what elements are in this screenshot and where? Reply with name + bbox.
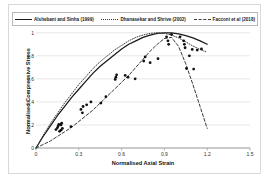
scatter-point <box>157 57 160 60</box>
scatter-point <box>115 73 118 76</box>
scatter-point <box>179 35 182 38</box>
scatter-point <box>200 48 203 51</box>
scatter-point <box>60 122 63 125</box>
scatter-point <box>134 77 137 80</box>
scatter-point <box>167 39 170 42</box>
legend-item-facconi: Facconi et al (2018) <box>194 17 255 22</box>
y-tick-label: 0 <box>31 145 34 151</box>
scatter-point <box>182 39 185 42</box>
plot-svg <box>36 27 250 148</box>
legend-item-dhanasekar: Dhanasekar and Shrive (2002) <box>101 17 185 22</box>
legend-label-facconi: Facconi et al (2018) <box>213 17 255 22</box>
scatter-point <box>81 111 84 114</box>
scatter-point <box>188 54 191 57</box>
series-line-3 <box>36 37 207 148</box>
scatter-point <box>90 101 93 104</box>
scatter-point <box>70 125 73 128</box>
scatter-point <box>191 48 194 51</box>
x-tick-label: 1.5 <box>247 151 254 157</box>
scatter-point <box>85 103 88 106</box>
scatter-point <box>165 35 168 38</box>
scatter-point <box>127 76 130 79</box>
scatter-point <box>100 102 103 105</box>
scatter-point <box>196 49 199 52</box>
scatter-point <box>184 46 187 49</box>
scatter-point <box>170 33 173 36</box>
legend-line-solid-icon <box>15 17 32 22</box>
plot-area <box>36 27 250 148</box>
scatter-point <box>61 127 64 130</box>
scatter-point <box>183 43 186 46</box>
x-tick-label: 0 <box>35 151 38 157</box>
scatter-point <box>149 61 152 64</box>
y-axis-title: Normalised Compressive Stress <box>25 31 31 151</box>
x-tick-label: 1.2 <box>204 151 211 157</box>
legend-label-alshebani: Alshebani and Sinha (1999) <box>34 17 94 22</box>
scatter-points <box>55 33 203 133</box>
scatter-point <box>167 43 170 46</box>
legend-item-alshebani: Alshebani and Sinha (1999) <box>15 17 94 22</box>
scatter-point <box>80 108 83 111</box>
x-axis-title: Normalised Axial Strain <box>36 160 250 166</box>
x-tick-label: 0.3 <box>75 151 82 157</box>
x-tick-label: 0.9 <box>161 151 168 157</box>
scatter-point <box>124 74 127 77</box>
y-tick-label: 1 <box>31 30 34 36</box>
x-tick-label: 0.6 <box>118 151 125 157</box>
y-axis-title-wrap: Normalised Compressive Stress <box>14 28 24 148</box>
scatter-point <box>192 68 195 71</box>
scatter-point <box>105 95 108 98</box>
x-axis-ticks: 00.30.60.91.21.5 <box>36 151 250 159</box>
legend-line-dotted-icon <box>101 17 118 22</box>
legend-line-dashed-icon <box>194 17 211 22</box>
gridlines <box>36 33 250 148</box>
scatter-point <box>142 60 145 63</box>
chart-legend: Alshebani and Sinha (1999) Dhanasekar an… <box>12 12 258 26</box>
legend-label-dhanasekar: Dhanasekar and Shrive (2002) <box>120 17 185 22</box>
figure-container: Alshebani and Sinha (1999) Dhanasekar an… <box>0 0 269 186</box>
scatter-point <box>144 56 147 59</box>
scatter-point <box>82 105 85 108</box>
scatter-point <box>185 67 188 70</box>
